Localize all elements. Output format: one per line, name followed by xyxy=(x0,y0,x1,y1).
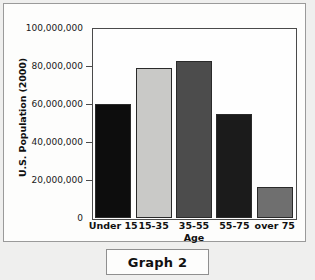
y-axis-tick-label: 40,000,000 xyxy=(31,137,83,147)
y-axis-tick-mark xyxy=(86,180,92,181)
y-axis-tick-mark xyxy=(86,142,92,143)
x-axis-title: Age xyxy=(92,232,296,243)
y-axis-tick-mark xyxy=(86,104,92,105)
caption-label: Graph 2 xyxy=(128,255,187,270)
x-axis-tick-label: 55-75 xyxy=(219,220,249,231)
x-axis-tick-label: 35-55 xyxy=(179,220,209,231)
y-axis-tick-label: 0 xyxy=(77,213,83,223)
x-axis-tick-label: Under 15 xyxy=(89,220,138,231)
y-axis-tick-mark xyxy=(86,66,92,67)
x-axis-tick-label: 15-35 xyxy=(138,220,168,231)
bar-over-75 xyxy=(257,187,293,218)
chart-screenshot: U.S. Population (2000) 100,000,00080,000… xyxy=(0,0,315,280)
chart-frame: U.S. Population (2000) 100,000,00080,000… xyxy=(3,3,306,242)
y-axis-tick-label: 60,000,000 xyxy=(31,99,83,109)
bar-35-55 xyxy=(176,61,212,218)
bar-series xyxy=(93,28,295,218)
bar-15-35 xyxy=(136,68,172,218)
caption-box: Graph 2 xyxy=(106,249,209,275)
y-axis-tick-label: 20,000,000 xyxy=(31,175,83,185)
y-axis-tick-label: 100,000,000 xyxy=(26,23,83,33)
bar-55-75 xyxy=(216,114,252,219)
y-axis-tick-labels: 100,000,00080,000,00060,000,00040,000,00… xyxy=(4,4,90,243)
y-axis-tick-label: 80,000,000 xyxy=(31,61,83,71)
x-axis-tick-label: over 75 xyxy=(255,220,295,231)
bar-under-15 xyxy=(95,104,131,218)
